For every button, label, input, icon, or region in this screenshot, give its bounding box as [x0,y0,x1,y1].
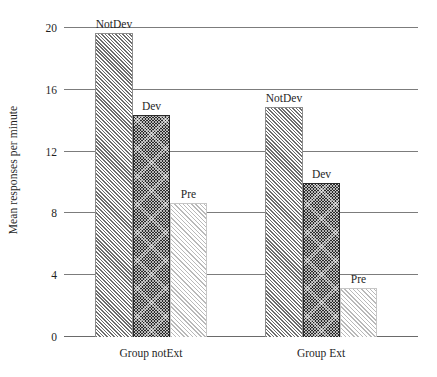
bar-notext-pre[interactable] [170,203,207,337]
bar-label-notext-dev: Dev [142,100,161,112]
y-tick-label-20: 20 [46,22,58,34]
y-axis-title: Mean responses per minute [0,0,26,340]
y-tick-label-0: 0 [51,331,57,343]
bar-notext-dev[interactable] [133,115,170,338]
bar-label-notext-pre: Pre [181,188,196,200]
bar-ext-dev[interactable] [303,183,340,338]
x-axis-label-group-ext: Group Ext [297,347,345,359]
y-tick-label-4: 4 [51,269,57,281]
bar-ext-notdev[interactable] [265,107,303,337]
bar-chart: Mean responses per minute 20 16 12 8 4 0 [0,0,437,377]
plot-area: 20 16 12 8 4 0 NotDev Dev Pre NotDev Dev… [64,28,418,337]
y-tick-label-12: 12 [46,145,58,157]
bar-label-ext-pre: Pre [351,273,366,285]
y-tick-label-16: 16 [46,84,58,96]
bar-label-notext-notdev: NotDev [96,18,132,30]
y-tick-label-8: 8 [51,207,57,219]
bar-label-ext-dev: Dev [312,168,331,180]
bar-label-ext-notdev: NotDev [266,92,302,104]
y-axis-title-text: Mean responses per minute [7,106,19,235]
bar-ext-pre[interactable] [340,288,377,337]
bar-notext-notdev[interactable] [95,33,133,337]
x-axis-label-group-notext: Group notExt [120,347,183,359]
